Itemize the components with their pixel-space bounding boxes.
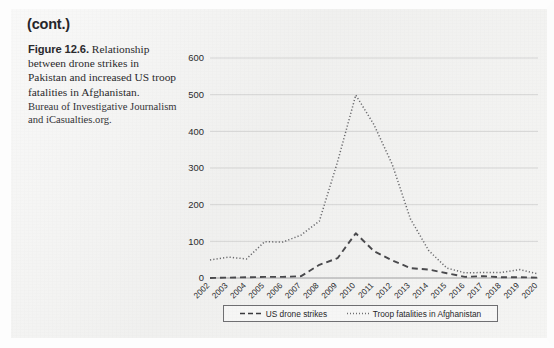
x-tick-2015: 2015 [429,281,449,301]
legend-label-drone-strikes: US drone strikes [266,309,327,319]
line-chart: 0100200300400500600 20022003200420052006… [176,40,544,340]
x-tick-2011: 2011 [357,281,376,300]
x-tick-2013: 2013 [393,281,413,301]
x-tick-2014: 2014 [411,281,431,301]
legend-label-troop-fatalities: Troop fatalities in Afghanistan [373,309,482,319]
figure-source-credit: Bureau of Investigative Journalism and i… [28,100,180,127]
x-tick-2009: 2009 [320,281,340,301]
y-tick-300: 300 [188,162,204,173]
x-tick-2012: 2012 [374,281,394,301]
legend-item-drone-strikes: US drone strikes [240,309,327,319]
chart-gridlines [210,58,538,278]
figure-number: Figure 12.6. [28,43,89,55]
x-axis-tick-labels: 2002200320042005200620072008200920102011… [192,281,540,301]
x-tick-2019: 2019 [502,281,522,301]
x-tick-2010: 2010 [338,281,358,301]
legend-swatch-dotted-icon [347,310,369,317]
x-tick-2016: 2016 [447,281,467,301]
chart-series-layer [210,95,538,278]
x-tick-2017: 2017 [466,281,486,301]
x-tick-2006: 2006 [265,281,285,301]
series-line-troop-fatalities [210,95,538,274]
y-tick-100: 100 [188,236,204,247]
y-tick-200: 200 [188,199,204,210]
x-tick-2018: 2018 [484,281,504,301]
legend-item-troop-fatalities: Troop fatalities in Afghanistan [347,309,482,319]
x-tick-2008: 2008 [302,281,322,301]
scanned-page: (cont.) Figure 12.6. Relationship betwee… [0,0,554,348]
page-continued-label: (cont.) [27,16,70,32]
chart-container: 0100200300400500600 20022003200420052006… [176,40,544,340]
chart-legend: US drone strikes Troop fatalities in Afg… [223,305,498,322]
y-tick-400: 400 [188,126,204,137]
y-axis-tick-labels: 0100200300400500600 [188,52,204,283]
x-tick-2002: 2002 [192,281,212,301]
x-tick-2003: 2003 [210,281,230,301]
x-tick-2005: 2005 [247,281,267,301]
y-tick-600: 600 [188,52,204,63]
x-tick-2020: 2020 [520,281,540,301]
legend-swatch-dashed-icon [240,310,262,317]
y-tick-500: 500 [188,89,204,100]
x-tick-2004: 2004 [229,281,249,301]
series-line-drone-strikes [210,233,538,278]
x-tick-2007: 2007 [283,281,303,301]
figure-caption: Figure 12.6. Relationship between drone … [28,42,180,127]
